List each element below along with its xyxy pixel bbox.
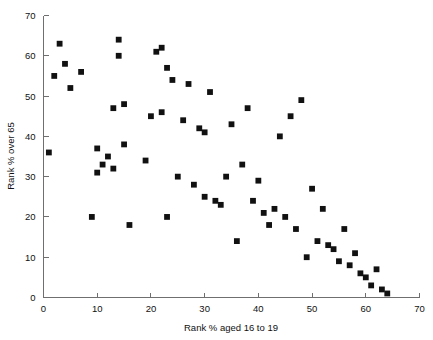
data-point	[89, 214, 95, 220]
y-tick-label: 20	[25, 211, 36, 222]
data-point	[110, 105, 116, 111]
tick-group	[44, 16, 420, 298]
data-point	[309, 186, 315, 192]
y-tick-label: 30	[25, 171, 36, 182]
x-tick-label: 70	[414, 303, 425, 314]
data-point	[186, 81, 192, 87]
data-point	[110, 166, 116, 172]
axis-group	[44, 16, 420, 298]
data-point	[191, 182, 197, 188]
data-point	[255, 178, 261, 184]
data-point	[164, 214, 170, 220]
data-point	[229, 121, 235, 127]
data-points-group	[46, 37, 390, 297]
y-tick-label: 40	[25, 131, 36, 142]
data-point	[368, 283, 374, 289]
data-point	[57, 41, 63, 47]
x-tick-label: 50	[307, 303, 318, 314]
data-point	[212, 198, 218, 204]
data-point	[202, 129, 208, 135]
y-tick-label: 0	[30, 292, 35, 303]
data-point	[180, 117, 186, 123]
data-point	[336, 258, 342, 264]
plot-area: 010203040506070010203040506070 Rank % ag…	[0, 0, 433, 340]
data-point	[127, 222, 133, 228]
data-point	[67, 85, 73, 91]
data-point	[352, 250, 358, 256]
data-point	[153, 49, 159, 55]
data-point	[62, 61, 68, 67]
x-tick-label: 10	[92, 303, 103, 314]
data-point	[245, 105, 251, 111]
data-point	[272, 206, 278, 212]
data-point	[121, 142, 127, 148]
x-tick-label: 60	[360, 303, 371, 314]
data-point	[51, 73, 57, 79]
data-point	[325, 242, 331, 248]
data-point	[175, 174, 181, 180]
x-tick-label: 30	[199, 303, 210, 314]
data-point	[315, 238, 321, 244]
data-point	[121, 101, 127, 107]
data-point	[234, 238, 240, 244]
data-point	[78, 69, 84, 75]
data-point	[304, 254, 310, 260]
tick-label-group: 010203040506070010203040506070	[25, 10, 425, 314]
data-point	[218, 202, 224, 208]
data-point	[46, 150, 52, 156]
data-point	[266, 222, 272, 228]
y-tick-label: 50	[25, 91, 36, 102]
data-point	[116, 53, 122, 59]
data-point	[320, 206, 326, 212]
data-point	[288, 113, 294, 119]
x-axis-title: Rank % aged 16 to 19	[184, 322, 278, 333]
data-point	[159, 109, 165, 115]
data-point	[347, 262, 353, 268]
data-point	[384, 291, 390, 297]
data-point	[94, 146, 100, 152]
data-point	[261, 210, 267, 216]
data-point	[363, 274, 369, 280]
data-point	[196, 125, 202, 131]
data-point	[207, 89, 213, 95]
y-tick-label: 70	[25, 10, 36, 21]
data-point	[143, 158, 149, 164]
x-tick-label: 20	[146, 303, 157, 314]
y-tick-label: 10	[25, 252, 36, 263]
data-point	[105, 154, 111, 160]
data-point	[202, 194, 208, 200]
x-tick-label: 40	[253, 303, 264, 314]
y-axis-title: Rank % over 65	[5, 122, 16, 190]
data-point	[159, 45, 165, 51]
data-point	[374, 266, 380, 272]
x-tick-label: 0	[41, 303, 46, 314]
data-point	[282, 214, 288, 220]
data-point	[250, 198, 256, 204]
y-tick-label: 60	[25, 50, 36, 61]
data-point	[298, 97, 304, 103]
data-point	[100, 162, 106, 168]
data-point	[277, 133, 283, 139]
data-point	[379, 287, 385, 293]
data-point	[341, 226, 347, 232]
data-point	[223, 174, 229, 180]
data-point	[239, 162, 245, 168]
data-point	[358, 270, 364, 276]
scatter-chart: 010203040506070010203040506070 Rank % ag…	[0, 0, 433, 340]
data-point	[116, 37, 122, 43]
data-point	[164, 65, 170, 71]
data-point	[94, 170, 100, 176]
data-point	[331, 246, 337, 252]
data-point	[170, 77, 176, 83]
data-point	[148, 113, 154, 119]
data-point	[293, 226, 299, 232]
